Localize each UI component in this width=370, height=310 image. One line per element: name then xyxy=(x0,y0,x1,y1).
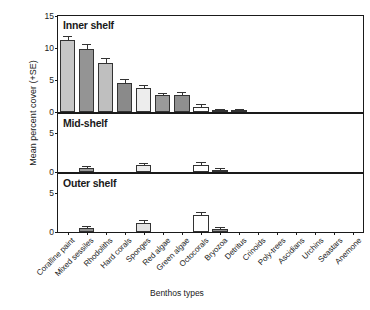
panel-outer-shelf: Outer shelf 05 xyxy=(57,173,364,233)
y-tick-label: 10 xyxy=(45,44,54,53)
error-bar-stem xyxy=(220,169,221,170)
plot-area-inner-shelf: 051015 xyxy=(58,16,363,112)
bar-mid-shelf-7 xyxy=(193,165,208,172)
bar-mid-shelf-1 xyxy=(79,168,94,172)
x-tick-mark xyxy=(334,232,335,235)
error-bar-cap xyxy=(101,58,110,59)
plot-area-mid-shelf: 05 xyxy=(58,114,363,172)
x-tick-mark xyxy=(315,232,316,235)
benthos-cover-figure: Mean percent cover (+SE) Inner shelf 051… xyxy=(0,0,370,310)
error-bar-cap xyxy=(235,109,244,110)
error-bar-stem xyxy=(125,80,126,82)
x-tick-mark xyxy=(125,232,126,235)
y-tick-mark xyxy=(55,193,58,194)
y-tick-label: 0 xyxy=(49,228,54,237)
y-tick-mark xyxy=(55,232,58,233)
y-tick-label: 0 xyxy=(49,168,54,177)
panel-mid-shelf: Mid-shelf 05 xyxy=(57,113,364,173)
x-tick-mark xyxy=(220,232,221,235)
error-bar-cap xyxy=(82,226,91,227)
error-bar-cap xyxy=(63,36,72,37)
error-bar-cap xyxy=(196,104,205,105)
y-tick-mark xyxy=(55,133,58,134)
error-bar-stem xyxy=(106,59,107,63)
error-bar-stem xyxy=(201,163,202,165)
error-bar-cap xyxy=(139,85,148,86)
x-tick-mark xyxy=(258,232,259,235)
error-bar-stem xyxy=(144,221,145,223)
y-tick-label: 0 xyxy=(49,108,54,117)
error-bar-stem xyxy=(144,164,145,165)
error-bar-stem xyxy=(201,213,202,215)
error-bar-cap xyxy=(82,44,91,45)
panel-inner-shelf: Inner shelf 051015 xyxy=(57,15,364,113)
bar-inner-shelf-4 xyxy=(136,88,151,112)
x-axis-label: Benthos types xyxy=(150,288,204,298)
x-tick-mark xyxy=(68,232,69,235)
y-tick-label: 5 xyxy=(49,189,54,198)
error-bar-stem xyxy=(68,37,69,40)
y-tick-mark xyxy=(55,80,58,81)
error-bar-stem xyxy=(144,86,145,88)
bar-inner-shelf-2 xyxy=(98,63,113,112)
error-bar-cap xyxy=(120,79,129,80)
error-bar-stem xyxy=(220,228,221,229)
y-axis-label: Mean percent cover (+SE) xyxy=(28,33,38,193)
x-tick-mark xyxy=(201,232,202,235)
error-bar-cap xyxy=(158,93,167,94)
error-bar-cap xyxy=(196,212,205,213)
bar-outer-shelf-8 xyxy=(212,229,227,232)
y-tick-label: 5 xyxy=(49,76,54,85)
plot-area-outer-shelf: 05 xyxy=(58,174,363,232)
error-bar-cap xyxy=(215,227,224,228)
error-bar-stem xyxy=(87,167,88,168)
y-tick-mark xyxy=(55,16,58,17)
error-bar-stem xyxy=(220,110,221,111)
x-tick-mark xyxy=(182,232,183,235)
x-tick-mark xyxy=(296,232,297,235)
bar-inner-shelf-3 xyxy=(117,83,132,112)
error-bar-cap xyxy=(215,168,224,169)
y-tick-mark xyxy=(55,48,58,49)
error-bar-stem xyxy=(201,105,202,107)
error-bar-stem xyxy=(163,94,164,96)
bar-inner-shelf-1 xyxy=(79,49,94,112)
error-bar-cap xyxy=(196,162,205,163)
x-tick-mark xyxy=(353,232,354,235)
error-bar-cap xyxy=(82,166,91,167)
bar-mid-shelf-4 xyxy=(136,165,151,172)
x-tick-mark xyxy=(106,232,107,235)
x-tick-mark xyxy=(277,232,278,235)
error-bar-cap xyxy=(139,220,148,221)
error-bar-cap xyxy=(215,109,224,110)
y-tick-label: 15 xyxy=(45,12,54,21)
bar-inner-shelf-0 xyxy=(60,40,75,112)
x-axis-tick-labels: Coralline paintMixed sessilesRhodolithsH… xyxy=(57,236,364,310)
bar-mid-shelf-8 xyxy=(212,170,227,172)
bar-inner-shelf-6 xyxy=(174,95,189,112)
bar-outer-shelf-1 xyxy=(79,228,94,232)
error-bar-cap xyxy=(139,163,148,164)
error-bar-stem xyxy=(87,45,88,49)
bar-outer-shelf-4 xyxy=(136,223,151,232)
bar-inner-shelf-5 xyxy=(155,95,170,112)
error-bar-cap xyxy=(177,92,186,93)
y-tick-label: 5 xyxy=(49,129,54,138)
error-bar-stem xyxy=(87,227,88,228)
bar-inner-shelf-7 xyxy=(193,107,208,112)
x-tick-mark xyxy=(163,232,164,235)
x-tick-mark xyxy=(144,232,145,235)
error-bar-stem xyxy=(182,93,183,95)
bar-outer-shelf-7 xyxy=(193,215,208,232)
x-tick-mark xyxy=(87,232,88,235)
x-tick-mark xyxy=(239,232,240,235)
